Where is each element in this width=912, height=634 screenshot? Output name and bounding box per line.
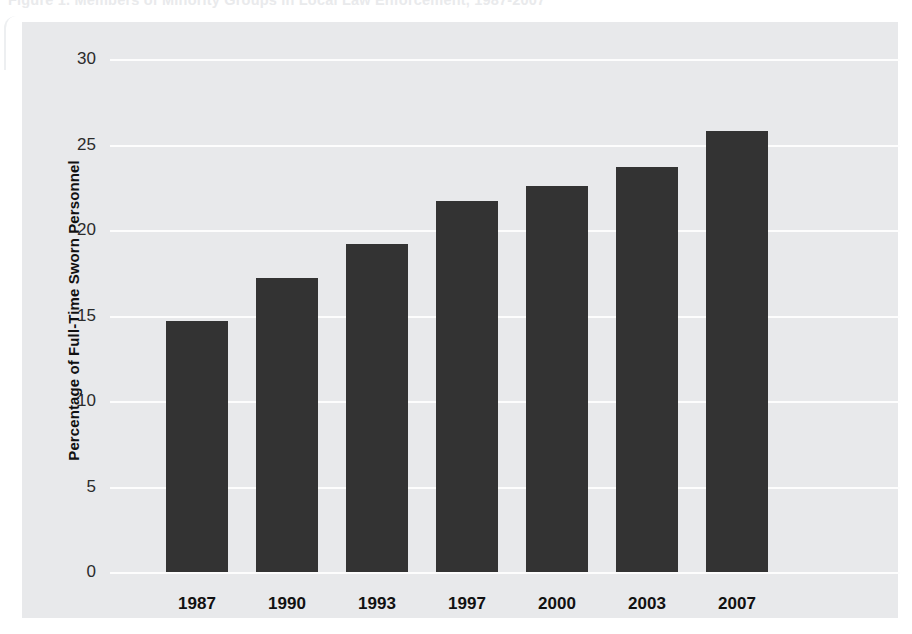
plot-area: 051015202530 198719901993199720002003200… (130, 59, 898, 572)
gridline: 0 (110, 572, 900, 574)
y-tick-label: 20 (77, 220, 96, 240)
x-tick-label: 1997 (430, 594, 504, 614)
y-tick-label: 5 (87, 477, 96, 497)
bar (436, 201, 498, 572)
bar-group: 2007 (700, 59, 774, 572)
bar-group: 1987 (160, 59, 234, 572)
bar (616, 167, 678, 572)
bar (526, 186, 588, 572)
bar (346, 244, 408, 572)
x-tick-label: 1990 (250, 594, 324, 614)
y-tick-label: 25 (77, 135, 96, 155)
x-tick-label: 1993 (340, 594, 414, 614)
bar (256, 278, 318, 572)
bar-group: 1997 (430, 59, 504, 572)
bar-group: 2003 (610, 59, 684, 572)
bar-series: 1987199019931997200020032007 (130, 59, 898, 572)
y-tick-label: 15 (77, 306, 96, 326)
bar (166, 321, 228, 572)
bar-group: 2000 (520, 59, 594, 572)
x-tick-label: 2007 (700, 594, 774, 614)
y-tick-label: 0 (87, 562, 96, 582)
x-tick-label: 2000 (520, 594, 594, 614)
y-tick-label: 10 (77, 391, 96, 411)
x-tick-label: 2003 (610, 594, 684, 614)
bar-group: 1993 (340, 59, 414, 572)
bar (706, 131, 768, 572)
bar-group: 1990 (250, 59, 324, 572)
scan-artifact (4, 16, 20, 70)
y-tick-label: 30 (77, 49, 96, 69)
bar-chart-panel: Percentage of Full-Time Sworn Personnel … (22, 22, 898, 618)
x-tick-label: 1987 (160, 594, 234, 614)
figure-title: Figure 1. Members of Minority Groups in … (0, 0, 912, 10)
